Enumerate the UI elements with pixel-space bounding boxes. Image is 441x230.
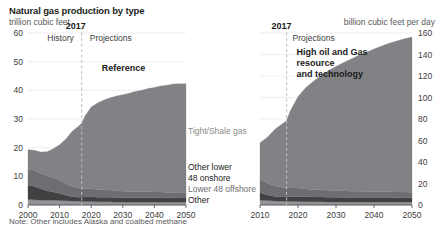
right-projections-label: Projections [293, 33, 335, 43]
right-x-tick-label: 2020 [289, 210, 308, 220]
right-case-label-line3: and technology [297, 69, 364, 79]
left-y-tick-label: 0 [18, 200, 23, 210]
legend: Tight/Shale gasOther lower48 onshoreLowe… [188, 126, 256, 205]
left-x-tick-label: 2020 [82, 210, 101, 220]
right-y-tick-label: 20 [418, 179, 428, 189]
right-x-tick-label: 2040 [365, 210, 384, 220]
left-x-tick-label: 2050 [177, 210, 196, 220]
legend-label-other-lower-48-onshore-line2: 48 onshore [188, 173, 231, 183]
right-y-tick-label: 0 [418, 200, 423, 210]
charts-canvas: 0102030405060200020102020203020402050020… [0, 0, 441, 230]
area-band-tight-shale-gas [28, 84, 186, 193]
left-history-label: History [47, 33, 74, 43]
right-x-tick-label: 2010 [251, 210, 270, 220]
right-case-label-line1: High oil and Gas [297, 47, 368, 57]
left-x-tick-label: 2030 [113, 210, 132, 220]
left-y-tick-label: 30 [14, 114, 24, 124]
left-y-tick-label: 20 [14, 143, 24, 153]
right-y-tick-label: 100 [418, 93, 432, 103]
right-divider-year-label: 2017 [272, 21, 292, 31]
right-x-tick-label: 2030 [327, 210, 346, 220]
legend-label-lower-48-offshore: Lower 48 offshore [188, 184, 256, 194]
left-case-label: Reference [102, 63, 146, 73]
annotations: 2017HistoryProjectionsReference2017Proje… [47, 21, 367, 79]
right-y-tick-label: 80 [418, 114, 428, 124]
left-x-tick-label: 2040 [145, 210, 164, 220]
legend-label-tight-shale-gas: Tight/Shale gas [188, 126, 247, 136]
left-y-tick-label: 50 [14, 57, 24, 67]
left-y-tick-label: 10 [14, 171, 24, 181]
left-projections-label: Projections [90, 33, 132, 43]
left-y-tick-label: 40 [14, 85, 24, 95]
right-y-tick-label: 140 [418, 50, 432, 60]
left-x-tick-label: 2000 [19, 210, 38, 220]
right-y-tick-label: 120 [418, 71, 432, 81]
right-y-tick-label: 60 [418, 136, 428, 146]
legend-label-other: Other [188, 195, 209, 205]
area-band-tight-shale-gas [260, 37, 412, 192]
legend-label-other-lower-48-onshore-line1: Other lower [188, 162, 232, 172]
left-x-tick-label: 2010 [50, 210, 69, 220]
left-chart-reference-case [28, 27, 186, 208]
chart-page: Natural gas production by type trillion … [0, 0, 441, 230]
right-y-tick-label: 160 [418, 28, 432, 38]
left-divider-year-label: 2017 [66, 21, 86, 31]
right-x-tick-label: 2050 [403, 210, 422, 220]
right-case-label-line2: resource [297, 58, 335, 68]
left-y-tick-label: 60 [14, 28, 24, 38]
right-y-tick-label: 40 [418, 157, 428, 167]
